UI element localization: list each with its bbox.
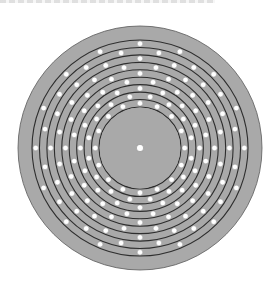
track-dot: [169, 114, 174, 119]
track-dot: [42, 126, 47, 131]
track-dot: [179, 103, 184, 108]
track-dot: [154, 187, 159, 192]
track-dot: [72, 158, 77, 163]
track-dot: [201, 209, 206, 214]
track-dot: [227, 145, 232, 150]
track-dot: [118, 240, 123, 245]
track-dot: [137, 205, 142, 210]
track-dot: [166, 214, 171, 219]
track-dot: [169, 177, 174, 182]
track-dot: [220, 180, 225, 185]
track-dot: [127, 196, 132, 201]
track-dot: [57, 161, 62, 166]
track-dot: [137, 86, 142, 91]
track-dot: [234, 185, 239, 190]
track-dot: [74, 82, 79, 87]
track-dot: [203, 132, 208, 137]
track-dot: [191, 226, 196, 231]
track-dot: [114, 90, 119, 95]
track-dot: [154, 104, 159, 109]
track-dot: [64, 219, 69, 224]
track-dot: [103, 228, 108, 233]
track-dot: [97, 242, 102, 247]
track-dot: [137, 220, 142, 225]
track-dot: [183, 77, 188, 82]
track-dot: [118, 50, 123, 55]
track-dot: [160, 200, 165, 205]
track-dot: [84, 226, 89, 231]
track-dot: [109, 76, 114, 81]
track-dot: [177, 49, 182, 54]
track-dot: [82, 183, 87, 188]
track-dot: [232, 164, 237, 169]
track-dot: [242, 145, 247, 150]
track-dot: [147, 94, 152, 99]
track-dot: [137, 71, 142, 76]
track-dot: [175, 201, 180, 206]
track-dot: [206, 174, 211, 179]
track-dot: [182, 145, 187, 150]
track-dot: [120, 104, 125, 109]
track-dot: [95, 103, 100, 108]
track-dot: [85, 198, 90, 203]
track-dot: [179, 187, 184, 192]
track-dot: [150, 80, 155, 85]
track-dot: [57, 92, 62, 97]
track-dot: [124, 211, 129, 216]
track-disk-diagram: [0, 0, 280, 288]
track-dot: [206, 117, 211, 122]
track-dot: [192, 122, 197, 127]
track-dot: [183, 213, 188, 218]
track-dot: [64, 72, 69, 77]
track-dot: [193, 108, 198, 113]
track-dot: [201, 82, 206, 87]
track-dot: [192, 168, 197, 173]
track-dot: [220, 111, 225, 116]
track-dot: [190, 198, 195, 203]
track-dot: [92, 77, 97, 82]
track-dot: [190, 93, 195, 98]
track-dot: [57, 129, 62, 134]
track-dot: [179, 128, 184, 133]
track-dot: [93, 145, 98, 150]
track-dot: [120, 187, 125, 192]
track-dot: [156, 240, 161, 245]
track-dot: [92, 213, 97, 218]
track-dot: [166, 102, 171, 107]
track-dot: [97, 49, 102, 54]
track-dot: [211, 72, 216, 77]
track-dot: [188, 155, 193, 160]
track-dot: [179, 162, 184, 167]
track-dot: [42, 164, 47, 169]
track-dot: [234, 105, 239, 110]
track-dot: [177, 242, 182, 247]
track-dot: [181, 116, 186, 121]
track-dot: [69, 191, 74, 196]
track-dot: [85, 93, 90, 98]
track-dot: [95, 187, 100, 192]
track-dot: [86, 135, 91, 140]
track-dot: [100, 201, 105, 206]
track-dot: [106, 114, 111, 119]
track-dot: [121, 226, 126, 231]
track-dot: [218, 129, 223, 134]
track-dot: [94, 174, 99, 179]
track-dot: [103, 63, 108, 68]
track-dot: [41, 105, 46, 110]
track-dot: [82, 168, 87, 173]
track-dot: [166, 189, 171, 194]
track-dot: [137, 101, 142, 106]
track-dot: [156, 50, 161, 55]
track-dot: [33, 145, 38, 150]
track-dot: [172, 228, 177, 233]
track-dot: [74, 209, 79, 214]
track-dot: [205, 100, 210, 105]
track-dot: [106, 177, 111, 182]
track-dot: [193, 183, 198, 188]
track-dot: [191, 65, 196, 70]
track-dot: [137, 41, 142, 46]
track-dot: [232, 126, 237, 131]
track-dot: [137, 190, 142, 195]
center-dot: [136, 144, 143, 151]
track-dot: [78, 145, 83, 150]
